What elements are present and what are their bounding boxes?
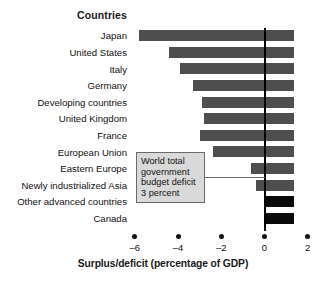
- category-label: United Kingdom: [0, 113, 127, 124]
- callout-line-3: budget deficit: [141, 177, 200, 188]
- category-label: Italy: [0, 64, 127, 75]
- axis-tick-label: –4: [163, 242, 193, 253]
- callout-line-1: World total: [141, 156, 200, 167]
- bar: [204, 113, 294, 124]
- x-axis-title: Surplus/deficit (percentage of GDP): [0, 258, 326, 269]
- axis-tick-label: –6: [120, 242, 150, 253]
- bar: [180, 63, 294, 74]
- callout-line-2: government: [141, 167, 200, 178]
- category-label: European Union: [0, 147, 127, 158]
- category-label: Newly industrialized Asia: [0, 180, 127, 191]
- category-label: Canada: [0, 213, 127, 224]
- plot-area: JapanUnited StatesItalyGermanyDeveloping…: [0, 0, 326, 281]
- axis-tick-dot: [176, 234, 181, 239]
- bar: [139, 30, 294, 41]
- callout-line-4: 3 percent: [141, 188, 200, 199]
- category-label: Germany: [0, 80, 127, 91]
- axis-tick-label: 2: [293, 242, 323, 253]
- axis-tick-dot: [262, 234, 267, 239]
- callout-box: World total government budget deficit 3 …: [136, 152, 205, 203]
- axis-tick-dot: [219, 234, 224, 239]
- callout-leader-line: [205, 177, 265, 178]
- bar-chart: Countries JapanUnited StatesItalyGermany…: [0, 0, 326, 281]
- bar: [169, 47, 294, 58]
- bar: [193, 80, 294, 91]
- category-label: Eastern Europe: [0, 163, 127, 174]
- bar: [213, 146, 294, 157]
- bar: [256, 180, 294, 191]
- bar: [264, 196, 293, 207]
- bar: [202, 97, 294, 108]
- axis-tick-label: 0: [249, 242, 279, 253]
- category-label: Other advanced countries: [0, 196, 127, 207]
- bar: [251, 163, 294, 174]
- category-label: Developing countries: [0, 97, 127, 108]
- bar: [264, 213, 293, 224]
- category-label: United States: [0, 47, 127, 58]
- axis-tick-label: –2: [206, 242, 236, 253]
- zero-reference-line: [264, 28, 266, 231]
- category-label: Japan: [0, 30, 127, 41]
- category-label: France: [0, 130, 127, 141]
- bar: [200, 130, 294, 141]
